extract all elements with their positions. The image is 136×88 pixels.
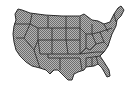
us-states-map (0, 0, 136, 88)
us-outline (13, 6, 124, 80)
